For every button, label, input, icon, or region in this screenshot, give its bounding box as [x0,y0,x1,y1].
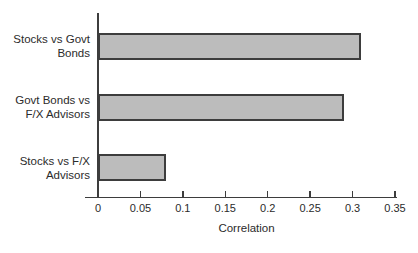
x-tick-label: 0.1 [175,202,190,214]
x-tick-label: 0 [95,202,101,214]
x-tick-mark [97,191,99,197]
x-tick-label: 0.25 [299,202,320,214]
x-tick-label: 0.3 [345,202,360,214]
x-tick-label: 0.2 [260,202,275,214]
category-label: Stocks vs F/X Advisors [0,154,90,182]
bar [98,33,361,60]
x-tick-mark [140,191,142,197]
x-tick-mark [225,191,227,197]
x-tick-label: 0.15 [215,202,236,214]
x-tick-mark [352,191,354,197]
x-tick-label: 0.35 [384,202,405,214]
x-tick-mark [267,191,269,197]
x-axis-line [85,197,397,199]
x-axis-title: Correlation [218,222,274,234]
bar [98,94,344,121]
x-tick-mark [394,191,396,197]
bar [98,154,166,181]
category-label: Stocks vs Govt Bonds [0,32,90,60]
category-label: Govt Bonds vs F/X Advisors [0,93,90,121]
correlation-bar-chart: Stocks vs Govt BondsGovt Bonds vs F/X Ad… [0,0,418,253]
x-tick-label: 0.05 [130,202,151,214]
x-tick-mark [309,191,311,197]
x-tick-mark [182,191,184,197]
